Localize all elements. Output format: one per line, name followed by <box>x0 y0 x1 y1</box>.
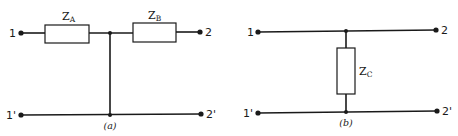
terminal-b-1-label: 1 <box>247 26 254 39</box>
terminal-b-1prime-dot <box>255 110 260 115</box>
terminal-a-2prime-dot <box>198 111 203 116</box>
caption-a: (a) <box>103 120 116 131</box>
impedance-zc-label: ZC <box>359 65 373 79</box>
diagram-b: 1 2 1' 2' ZC (b) <box>243 24 452 128</box>
terminal-b-2-label: 2 <box>441 24 448 37</box>
terminal-b-2prime-label: 2' <box>442 105 452 118</box>
junction-b-top-dot <box>344 29 348 33</box>
terminal-a-1-dot <box>18 30 23 35</box>
impedance-zb-label: ZB <box>148 9 162 23</box>
impedance-za-box <box>45 25 89 43</box>
impedance-zb-box <box>133 23 176 42</box>
terminal-a-1prime-label: 1' <box>6 109 16 122</box>
diagram-a: 1 2 1' 2' ZA ZB (a) <box>6 9 216 131</box>
junction-b-bottom-dot <box>344 110 348 114</box>
terminal-b-2-dot <box>433 27 438 32</box>
terminal-b-1-dot <box>255 29 260 34</box>
circuit-diagrams: 1 2 1' 2' ZA ZB (a) 1 2 1' 2' ZC (b) <box>0 0 458 136</box>
junction-a-top-dot <box>108 31 112 35</box>
impedance-zc-box <box>337 48 355 94</box>
junction-a-bottom-dot <box>108 113 112 117</box>
terminal-b-1prime-label: 1' <box>243 107 253 120</box>
terminal-b-2prime-dot <box>434 108 439 113</box>
terminal-a-2-label: 2 <box>205 26 212 39</box>
caption-b: (b) <box>339 117 353 128</box>
terminal-a-2prime-label: 2' <box>206 108 216 121</box>
terminal-a-1-label: 1 <box>9 27 16 40</box>
terminal-a-1prime-dot <box>18 112 23 117</box>
terminal-a-2-dot <box>197 29 202 34</box>
impedance-za-label: ZA <box>62 10 76 24</box>
